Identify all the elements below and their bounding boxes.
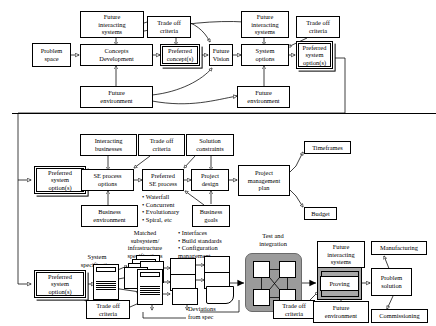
node-project-design[interactable]: Project design — [191, 169, 229, 191]
document-header-bar — [96, 267, 116, 272]
label-deviations-from-spec: Deviations from spec — [188, 305, 232, 320]
doc-matched-subsystem-specs[interactable] — [124, 255, 168, 307]
node-system-options[interactable]: System options — [241, 44, 289, 66]
page-interface-spec[interactable] — [172, 288, 198, 305]
node-problem-space[interactable]: Problem space — [32, 43, 71, 67]
node-commissioning[interactable]: Commissioning — [371, 309, 428, 323]
document-header-bar — [140, 272, 160, 277]
node-trade-off-criteria-3[interactable]: Trade off criteria — [138, 134, 185, 156]
label-test-and-integration: Test and integration — [245, 232, 301, 247]
node-proving[interactable]: Proving — [320, 276, 359, 291]
label-se-process-list: • Waterfall • Concurrent • Evolutionary … — [142, 193, 198, 224]
node-budget[interactable]: Budget — [304, 207, 337, 220]
node-solution-constraints[interactable]: Solution constraints — [186, 134, 234, 156]
document-text-lines — [140, 277, 160, 302]
stage2-frame — [12, 113, 436, 114]
node-preferred-concepts[interactable]: Preferred concept(s) — [160, 44, 200, 66]
process-flow-diagram: Problem space Future interacting systems… — [0, 0, 436, 326]
document-page — [93, 264, 119, 300]
document-page-main — [137, 269, 163, 305]
node-interacting-businesses[interactable]: Interacting businesses — [80, 134, 137, 156]
node-preferred-system-options-2[interactable]: Preferred system option(s) — [34, 166, 86, 194]
node-future-interacting-systems-2[interactable]: Future interacting systems — [241, 11, 289, 38]
page-build-standard[interactable] — [206, 286, 234, 304]
node-future-environment-3[interactable]: Future environment — [313, 301, 369, 323]
node-business-environment[interactable]: Business environment — [81, 205, 138, 227]
node-se-process-options[interactable]: SE process options — [81, 169, 134, 191]
node-trade-off-criteria-1[interactable]: Trade off criteria — [147, 16, 191, 38]
doc-system-specification[interactable] — [93, 264, 119, 300]
node-future-environment-2[interactable]: Future environment — [237, 86, 290, 108]
node-future-interacting-systems-1[interactable]: Future interacting systems — [80, 11, 144, 38]
node-concepts-development[interactable]: Concepts Development — [80, 44, 153, 66]
node-trade-off-criteria-2[interactable]: Trade off criteria — [296, 16, 340, 38]
node-project-management-plan[interactable]: Project management plan — [238, 165, 290, 196]
page-interface-spec[interactable] — [170, 258, 196, 275]
node-trade-off-criteria-5[interactable]: Trade off criteria — [273, 300, 315, 319]
document-text-lines — [96, 272, 116, 297]
node-timeframes[interactable]: Timeframes — [304, 141, 351, 154]
node-preferred-system-options-3[interactable]: Preferred system option(s) — [34, 270, 86, 298]
node-preferred-se-process[interactable]: Preferred SE process — [142, 169, 184, 191]
node-preferred-system-options-1[interactable]: Preferred system option(s) — [296, 41, 333, 69]
node-trade-off-criteria-4[interactable]: Trade off criteria — [86, 300, 130, 319]
node-problem-solution[interactable]: Problem solution — [371, 268, 412, 296]
node-future-interacting-systems-3[interactable]: Future interacting systems — [317, 241, 365, 268]
page-build-standard[interactable] — [204, 256, 230, 273]
node-future-vision[interactable]: Future Vision — [209, 44, 233, 66]
node-future-environment-1[interactable]: Future environment — [80, 86, 153, 108]
node-manufacturing[interactable]: Manufacturing — [371, 241, 427, 255]
